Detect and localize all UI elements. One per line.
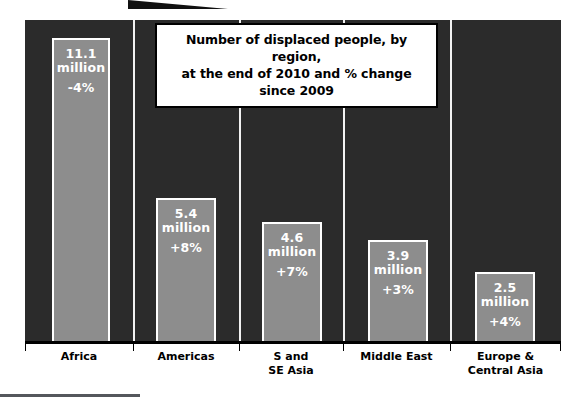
bottom-divider-rule <box>0 394 140 397</box>
bar-africa[interactable]: 11.1 million -4% <box>52 38 110 341</box>
bar-change-americas: +8% <box>158 241 214 255</box>
column-divider-4 <box>450 20 452 341</box>
bar-change-europe-central-asia: +4% <box>477 315 533 329</box>
bar-value-middle-east: 3.9 <box>370 249 426 263</box>
bar-middle-east[interactable]: 3.9 million +3% <box>368 240 428 341</box>
bar-change-s-and-se-asia: +7% <box>264 265 320 279</box>
axis-baseline <box>25 341 561 344</box>
bar-value-americas: 5.4 <box>158 207 214 221</box>
category-label-middle-east-line-1: Middle East <box>360 350 432 363</box>
category-label-europe-central-asia-line-2: Central Asia <box>468 364 543 377</box>
category-axis-labels: Africa Americas S and SE Asia Middle Eas… <box>25 350 561 390</box>
bar-unit-americas: million <box>158 221 214 235</box>
bar-s-and-se-asia[interactable]: 4.6 million +7% <box>262 222 322 341</box>
chart-title-line-2: at the end of 2010 and % change since 20… <box>165 65 428 99</box>
bar-unit-middle-east: million <box>370 263 426 277</box>
bar-unit-africa: million <box>54 61 108 75</box>
chart-title-line-1: Number of displaced people, by region, <box>165 31 428 65</box>
bar-unit-europe-central-asia: million <box>477 295 533 309</box>
category-label-africa: Africa <box>25 350 133 364</box>
category-label-europe-central-asia: Europe & Central Asia <box>450 350 561 378</box>
bar-unit-s-and-se-asia: million <box>264 245 320 259</box>
category-label-s-and-se-asia-line-2: SE Asia <box>268 364 314 377</box>
category-label-americas: Americas <box>133 350 239 364</box>
wedge-shape-icon <box>128 0 228 9</box>
bar-change-middle-east: +3% <box>370 283 426 297</box>
bar-value-s-and-se-asia: 4.6 <box>264 231 320 245</box>
category-label-americas-line-1: Americas <box>157 350 214 363</box>
column-divider-1 <box>133 20 135 341</box>
bar-change-africa: -4% <box>54 81 108 95</box>
bar-europe-central-asia[interactable]: 2.5 million +4% <box>475 272 535 341</box>
top-wedge-decoration <box>128 0 228 12</box>
category-label-s-and-se-asia: S and SE Asia <box>239 350 343 378</box>
chart-title-box: Number of displaced people, by region, a… <box>155 23 438 108</box>
category-label-middle-east: Middle East <box>343 350 450 364</box>
bar-value-europe-central-asia: 2.5 <box>477 281 533 295</box>
category-label-africa-line-1: Africa <box>61 350 97 363</box>
bar-value-africa: 11.1 <box>54 47 108 61</box>
bar-americas[interactable]: 5.4 million +8% <box>156 198 216 341</box>
category-label-europe-central-asia-line-1: Europe & <box>477 350 534 363</box>
category-label-s-and-se-asia-line-1: S and <box>274 350 309 363</box>
